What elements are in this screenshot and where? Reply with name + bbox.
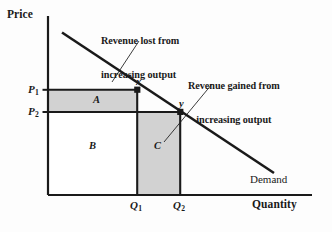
annotation-revenue-lost: Revenue lost from increasing output	[101, 12, 179, 103]
price-tick-base-2: P	[28, 105, 35, 117]
price-tick-sub-2: 2	[35, 110, 39, 119]
price-tick-base-1: P	[28, 83, 35, 95]
point-y-label: y	[179, 98, 184, 110]
price-tick-label-2: P2	[28, 105, 39, 118]
x-axis-title: Quantity	[252, 198, 297, 211]
annotation-revenue-gained-line1: Revenue gained from	[188, 80, 280, 91]
annotation-revenue-lost-line1: Revenue lost from	[101, 35, 179, 46]
quantity-tick-base-1: Q	[130, 199, 138, 211]
quantity-tick-base-2: Q	[173, 199, 181, 211]
price-tick-label-1: P1	[28, 83, 39, 96]
demand-curve-label: Demand	[250, 173, 287, 185]
region-label-c: C	[154, 140, 161, 152]
y-axis-title: Price	[7, 8, 33, 21]
quantity-tick-label-1: Q1	[130, 199, 142, 212]
annotation-revenue-gained-line2: increasing output	[188, 114, 280, 125]
quantity-tick-sub-2: 2	[181, 204, 185, 213]
economics-diagram: Price Quantity Demand P1 P2 Q1 Q2 x y A …	[0, 0, 332, 232]
annotation-revenue-gained: Revenue gained from increasing output	[188, 57, 280, 148]
quantity-tick-label-2: Q2	[173, 199, 185, 212]
region-c-shape	[137, 112, 180, 195]
quantity-tick-sub-1: 1	[138, 204, 142, 213]
annotation-revenue-lost-line2: increasing output	[101, 69, 179, 80]
region-label-b: B	[89, 140, 96, 152]
price-tick-sub-1: 1	[35, 88, 39, 97]
region-b-shape	[48, 112, 137, 195]
region-label-a: A	[93, 94, 100, 106]
